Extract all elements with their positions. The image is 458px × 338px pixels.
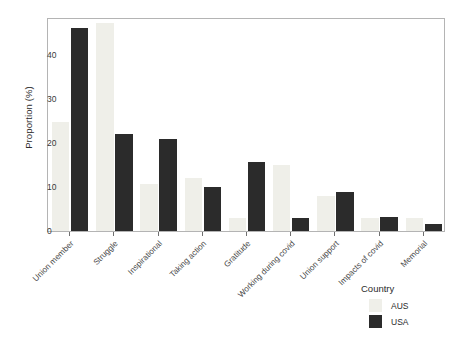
bar-aus-4 xyxy=(229,218,247,231)
bar-aus-8 xyxy=(406,218,424,231)
x-tick-mark xyxy=(379,232,380,236)
plot-panel xyxy=(47,18,445,232)
bar-aus-7 xyxy=(361,218,379,231)
legend-entry-usa: USA xyxy=(369,315,453,328)
bar-usa-7 xyxy=(380,217,398,231)
x-tick-mark xyxy=(290,232,291,236)
bar-chart: Proportion (%) 010203040 Union memberStr… xyxy=(0,0,458,338)
x-tick-mark xyxy=(158,232,159,236)
y-tick-label: 40 xyxy=(47,50,59,60)
bar-usa-8 xyxy=(425,224,443,231)
x-tick-mark xyxy=(113,232,114,236)
legend-title: Country xyxy=(361,283,453,294)
bar-aus-2 xyxy=(140,184,158,231)
legend-entries: AUSUSA xyxy=(361,299,453,328)
legend-swatch-usa xyxy=(369,315,382,328)
bar-aus-3 xyxy=(185,178,203,231)
legend-label-aus: AUS xyxy=(391,301,408,311)
bar-aus-5 xyxy=(273,165,291,231)
legend: Country AUSUSA xyxy=(361,283,453,331)
x-tick-label: Struggle xyxy=(33,239,119,325)
bar-usa-0 xyxy=(71,28,89,231)
x-tick-mark xyxy=(202,232,203,236)
plot-area xyxy=(48,19,444,231)
bar-usa-3 xyxy=(204,187,222,231)
bar-aus-6 xyxy=(317,196,335,231)
y-tick-label: 10 xyxy=(47,182,59,192)
bar-usa-4 xyxy=(248,162,266,231)
bar-aus-1 xyxy=(96,23,114,231)
bar-usa-2 xyxy=(159,139,177,231)
y-axis-title: Proportion (%) xyxy=(23,43,34,193)
legend-swatch-aus xyxy=(369,299,382,312)
bar-usa-6 xyxy=(336,192,354,231)
x-tick-mark xyxy=(246,232,247,236)
x-tick-mark xyxy=(334,232,335,236)
bar-usa-5 xyxy=(292,218,310,231)
y-tick-label: 30 xyxy=(47,94,59,104)
legend-label-usa: USA xyxy=(391,317,408,327)
y-tick-label: 20 xyxy=(47,138,59,148)
x-tick-mark xyxy=(423,232,424,236)
legend-entry-aus: AUS xyxy=(369,299,453,312)
x-tick-mark xyxy=(69,232,70,236)
y-tick-label: 0 xyxy=(47,226,55,236)
bar-usa-1 xyxy=(115,134,133,231)
